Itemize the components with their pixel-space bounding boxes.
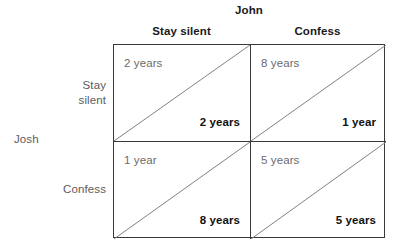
payoff-matrix: 2 years 2 years 8 years 1 year 1 year 8 …: [113, 44, 385, 238]
row-header-stay-silent-line2: silent: [40, 93, 106, 108]
column-player-payoff: 8 years: [261, 57, 299, 69]
row-header-stay-silent: Stay silent: [40, 78, 106, 108]
column-player-payoff: 2 years: [124, 57, 162, 69]
column-header-confess: Confess: [250, 25, 385, 37]
matrix-cell-confess-confess: 5 years 5 years: [251, 142, 386, 239]
column-player-payoff: 1 year: [124, 154, 157, 166]
matrix-cell-silent-silent: 2 years 2 years: [114, 45, 251, 142]
matrix-cell-confess-silent: 1 year 8 years: [114, 142, 251, 239]
row-header-confess: Confess: [40, 182, 106, 197]
column-player-title: John: [113, 4, 385, 16]
row-player-payoff: 1 year: [342, 116, 376, 128]
row-player-title: Josh: [14, 133, 39, 145]
row-header-stay-silent-line1: Stay: [40, 78, 106, 93]
row-player-payoff: 8 years: [200, 214, 240, 226]
row-player-payoff: 2 years: [200, 116, 240, 128]
column-header-stay-silent: Stay silent: [113, 25, 250, 37]
row-header-confess-line1: Confess: [40, 182, 106, 197]
row-player-payoff: 5 years: [336, 214, 376, 226]
matrix-cell-silent-confess: 8 years 1 year: [251, 45, 386, 142]
column-player-payoff: 5 years: [261, 154, 299, 166]
